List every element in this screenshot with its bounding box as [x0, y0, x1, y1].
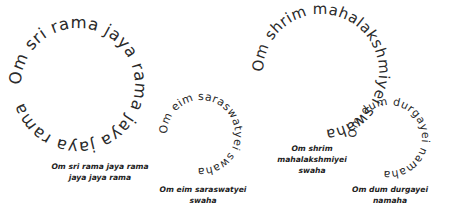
- ring-text-3: Om shrim mahalakshmiyei swaha: [249, 0, 394, 144]
- caption-2: Om eim saraswatyei swaha: [155, 184, 251, 206]
- caption-3: Om shrim mahalakshmiyei swaha: [262, 143, 362, 176]
- mantra-ring-1: Om sri rama jaya rama jaya jaya rama: [6, 13, 151, 157]
- mantra-ring-3: Om shrim mahalakshmiyei swaha: [249, 0, 394, 144]
- caption-1-line-1: Om sri rama jaya rama: [30, 161, 170, 172]
- caption-4-line-2: namaha: [348, 195, 432, 206]
- caption-3-line-2: mahalakshmiyei: [262, 154, 362, 165]
- mantra-ring-2: Om eim saraswatyei swaha: [157, 90, 245, 178]
- ring-text-2: Om eim saraswatyei swaha: [157, 90, 245, 178]
- caption-3-line-1: Om shrim: [262, 143, 362, 154]
- caption-2-line-2: swaha: [155, 195, 251, 206]
- caption-1: Om sri rama jaya rama jaya jaya rama: [30, 161, 170, 183]
- caption-4: Om dum durgayei namaha: [348, 184, 432, 206]
- caption-4-line-1: Om dum durgayei: [348, 184, 432, 195]
- caption-1-line-2: jaya jaya rama: [30, 172, 170, 183]
- ring-text-1: Om sri rama jaya rama jaya jaya rama: [6, 13, 151, 157]
- caption-2-line-1: Om eim saraswatyei: [155, 184, 251, 195]
- caption-3-line-3: swaha: [262, 165, 362, 176]
